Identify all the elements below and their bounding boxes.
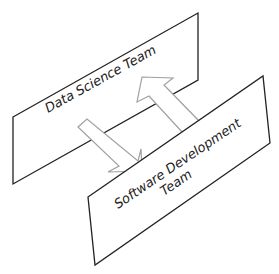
diagram-canvas: Data Science Team Software Development T…	[0, 0, 279, 274]
